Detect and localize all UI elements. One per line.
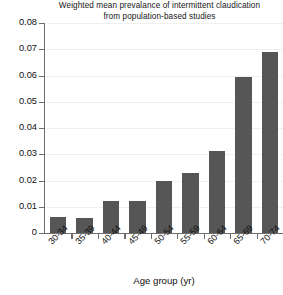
- x-tick-mark: [124, 234, 125, 239]
- chart-figure: Weighted mean prevalance of intermittent…: [0, 0, 283, 295]
- chart-title: Weighted mean prevalance of intermittent…: [38, 1, 281, 22]
- bar: [209, 151, 225, 233]
- y-tick-mark: [39, 102, 44, 103]
- chart-title-line-1: Weighted mean prevalance of intermittent…: [59, 1, 260, 10]
- x-axis-title: Age group (yr): [45, 275, 283, 286]
- chart-title-line-2: from population-based studies: [38, 12, 281, 23]
- y-tick-label: 0.02: [3, 176, 37, 185]
- y-tick-label: 0.08: [3, 18, 37, 27]
- y-axis-tick-labels: 0.080.070.060.050.040.030.020.010: [0, 0, 37, 295]
- y-tick-label: 0.04: [3, 123, 37, 132]
- y-tick-label: 0.06: [3, 71, 37, 80]
- y-tick-label: 0: [3, 228, 37, 237]
- y-tick-label: 0.07: [3, 44, 37, 53]
- y-tick-mark: [39, 207, 44, 208]
- y-tick-mark: [39, 233, 44, 234]
- y-tick-label: 0.01: [3, 202, 37, 211]
- y-tick-mark: [39, 128, 44, 129]
- y-tick-label: 0.05: [3, 97, 37, 106]
- y-tick-mark: [39, 154, 44, 155]
- bar: [262, 52, 278, 233]
- bar-series: [45, 23, 283, 233]
- y-tick-mark: [39, 23, 44, 24]
- y-tick-mark: [39, 49, 44, 50]
- y-tick-label: 0.03: [3, 149, 37, 158]
- bar: [235, 77, 251, 233]
- y-tick-mark: [39, 181, 44, 182]
- y-tick-mark: [39, 76, 44, 77]
